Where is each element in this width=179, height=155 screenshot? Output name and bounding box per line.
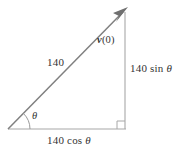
angle-label: θ bbox=[32, 111, 37, 122]
theta-symbol-adjacent: θ bbox=[85, 134, 91, 146]
opposite-expression: 140 sin bbox=[130, 62, 166, 74]
vector-argument: (0) bbox=[102, 34, 115, 45]
vector-shaft-line bbox=[8, 12, 123, 129]
vector-label: v(0) bbox=[97, 35, 115, 46]
angle-arc bbox=[24, 114, 31, 130]
vector-diagram-figure: 140 v(0) 140 sin θ 140 cos θ θ bbox=[0, 0, 179, 155]
magnitude-label: 140 bbox=[47, 57, 64, 68]
right-angle-marker-icon bbox=[117, 121, 125, 129]
theta-symbol-angle: θ bbox=[32, 110, 37, 121]
triangle-graphic bbox=[0, 0, 179, 155]
adjacent-expression: 140 cos bbox=[47, 134, 85, 146]
theta-symbol-opposite: θ bbox=[166, 62, 172, 74]
adjacent-side-label: 140 cos θ bbox=[47, 135, 91, 146]
magnitude-value: 140 bbox=[47, 56, 64, 68]
opposite-side-label: 140 sin θ bbox=[130, 63, 172, 74]
